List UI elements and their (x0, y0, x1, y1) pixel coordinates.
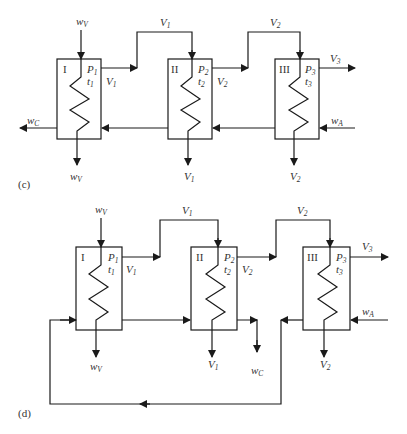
svg-text:V2: V2 (297, 204, 308, 218)
evaporator-diagrams: wV I P1 t1 V1 V1 wV wC (c) II P2 t2 V2 V… (0, 0, 407, 434)
svg-text:V3: V3 (362, 240, 373, 254)
svg-text:I: I (63, 63, 67, 75)
svg-text:t1: t1 (87, 75, 94, 89)
svg-text:t2: t2 (198, 75, 205, 89)
svg-text:V2: V2 (320, 358, 331, 372)
svg-text:II: II (196, 251, 204, 263)
product-outlet-line (237, 320, 257, 352)
vapor-transfer-line (248, 32, 300, 68)
svg-text:V3: V3 (330, 52, 341, 66)
svg-text:I: I (81, 251, 85, 263)
svg-text:V1: V1 (106, 75, 116, 89)
svg-text:V2: V2 (290, 170, 301, 184)
diagram-d-labels: wV I P1 t1 V1 V1 wV (d) II P2 t2 V2 V1 w… (18, 203, 374, 420)
svg-text:wV: wV (95, 203, 108, 217)
svg-text:V1: V1 (126, 263, 136, 277)
svg-text:V1: V1 (184, 170, 194, 184)
svg-text:V2: V2 (217, 75, 228, 89)
svg-text:t3: t3 (336, 263, 343, 277)
heating-coil-icon (318, 247, 337, 330)
svg-text:t3: t3 (305, 75, 312, 89)
heating-coil-icon (89, 247, 108, 330)
svg-text:wA: wA (331, 114, 343, 128)
svg-text:wA: wA (362, 305, 374, 319)
diagram-d (50, 218, 388, 404)
svg-text:t1: t1 (108, 263, 115, 277)
svg-text:wV: wV (90, 360, 103, 374)
svg-text:V1: V1 (160, 16, 170, 30)
svg-text:wC: wC (251, 364, 264, 378)
svg-text:(d): (d) (18, 407, 31, 420)
svg-text:III: III (279, 63, 290, 75)
svg-text:V1: V1 (182, 204, 192, 218)
recycle-line (50, 320, 281, 404)
svg-text:V1: V1 (208, 358, 218, 372)
svg-text:V2: V2 (242, 263, 253, 277)
svg-text:(c): (c) (18, 178, 31, 191)
vapor-transfer-line (160, 220, 218, 257)
heating-coil-icon (206, 247, 225, 330)
vapor-transfer-line (137, 32, 192, 68)
diagram-c (20, 30, 355, 165)
svg-text:wC: wC (27, 114, 40, 128)
svg-text:II: II (171, 63, 179, 75)
svg-text:V2: V2 (270, 16, 281, 30)
svg-text:wV: wV (76, 15, 89, 29)
svg-text:III: III (307, 251, 318, 263)
svg-text:wV: wV (70, 170, 83, 184)
svg-text:t2: t2 (224, 263, 231, 277)
